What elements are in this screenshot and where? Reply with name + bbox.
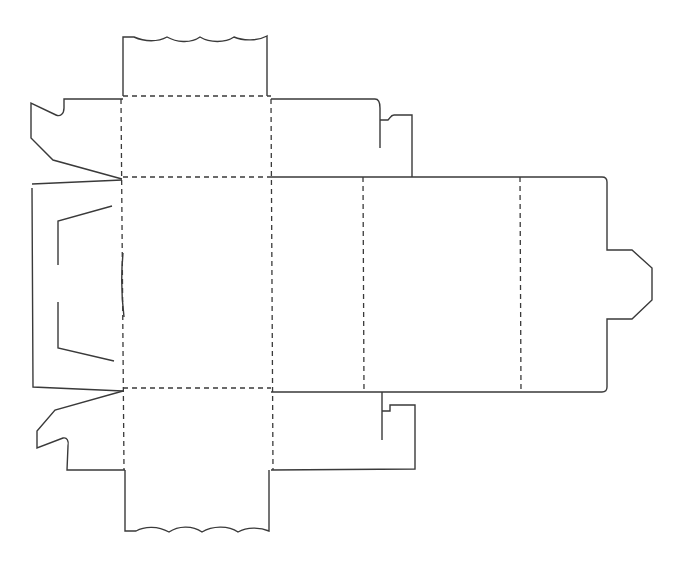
fold-right-vertical: [271, 99, 273, 470]
inner-cut-lower: [58, 302, 114, 361]
right-dust-flap-lower: [271, 392, 415, 470]
left-dust-flap-upper: [31, 99, 123, 179]
fold-side-panel-1: [363, 177, 364, 392]
inner-cut-upper: [58, 206, 112, 265]
top-tuck-flap: [123, 36, 267, 96]
fold-back-panel: [520, 177, 521, 392]
right-dust-flap-upper: [271, 99, 412, 177]
right-panels-outline: [271, 177, 652, 392]
bottom-tuck-flap: [125, 470, 269, 532]
dieline-diagram: [0, 0, 685, 567]
left-dust-flap-lower: [37, 391, 125, 470]
